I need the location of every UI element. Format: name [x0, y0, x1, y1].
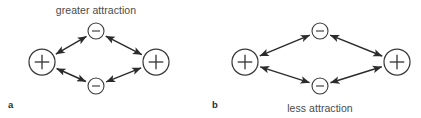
node-a-bottom-minus — [88, 78, 104, 94]
labels-layer: greater attractionaless attractionb — [8, 4, 353, 114]
node-b-right-plus — [384, 49, 410, 75]
node-a-top-minus — [88, 23, 104, 39]
edge-a-edge-left-top — [56, 36, 87, 54]
node-a-right-plus — [143, 49, 169, 75]
edge-b-edge-bottom-left — [260, 67, 309, 83]
node-b-left-plus — [232, 49, 258, 75]
diagram-canvas: greater attractionaless attractionb — [0, 0, 421, 118]
node-a-left-plus — [29, 49, 55, 75]
panel-caption-b: less attraction — [287, 102, 353, 114]
panel-letter-b: b — [212, 99, 218, 110]
node-b-bottom-minus — [312, 78, 328, 94]
panel-letter-a: a — [8, 99, 14, 110]
edges-layer — [56, 35, 382, 83]
edge-b-edge-top-right — [330, 35, 382, 56]
edge-a-edge-bottom-left — [57, 69, 86, 82]
node-b-top-minus — [312, 23, 328, 39]
edge-b-edge-right-bottom — [331, 67, 382, 83]
attraction-figure: greater attractionaless attractionb — [0, 0, 421, 118]
edge-a-edge-right-bottom — [106, 68, 141, 82]
edge-b-edge-left-top — [260, 35, 310, 56]
edge-a-edge-top-right — [106, 36, 142, 55]
panel-caption-a: greater attraction — [56, 4, 136, 16]
nodes-layer — [29, 23, 410, 94]
